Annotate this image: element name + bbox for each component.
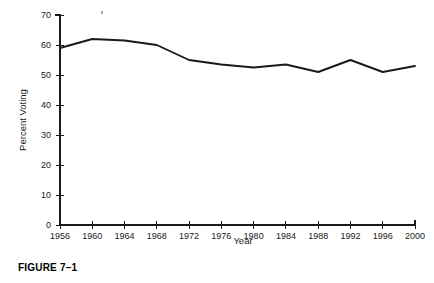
- y-tick-label: 30: [41, 130, 51, 140]
- figure-container: 010203040506070 195619601964196819721976…: [0, 0, 434, 283]
- x-tick-label: 1964: [115, 231, 135, 241]
- y-tick-label: 50: [41, 70, 51, 80]
- data-series-line: [60, 39, 415, 72]
- chart-axes: [55, 15, 415, 225]
- figure-caption: FIGURE 7–1: [18, 262, 77, 273]
- x-tick-label: 1976: [211, 231, 231, 241]
- x-axis-title: Year: [233, 235, 252, 246]
- x-tick-label: 1992: [340, 231, 360, 241]
- x-tick-label: 2000: [405, 231, 425, 241]
- y-tick-label: 20: [41, 160, 51, 170]
- print-speck-artifact: [101, 11, 103, 14]
- x-tick-label: 1960: [82, 231, 102, 241]
- y-tick-label: 40: [41, 100, 51, 110]
- y-tick-label: 60: [41, 40, 51, 50]
- x-tick-label: 1996: [373, 231, 393, 241]
- x-tick-label: 1972: [179, 231, 199, 241]
- x-tick-label: 1968: [147, 231, 167, 241]
- x-tick-label: 1988: [308, 231, 328, 241]
- y-tick-label: 70: [41, 10, 51, 20]
- x-tick-label: 1956: [50, 231, 70, 241]
- y-tick-label: 0: [46, 220, 51, 230]
- y-axis-title: Percent Voting: [17, 89, 28, 151]
- y-axis-tick-labels: 010203040506070: [41, 10, 51, 230]
- y-tick-label: 10: [41, 190, 51, 200]
- line-chart: 010203040506070 195619601964196819721976…: [0, 0, 434, 248]
- x-tick-label: 1984: [276, 231, 296, 241]
